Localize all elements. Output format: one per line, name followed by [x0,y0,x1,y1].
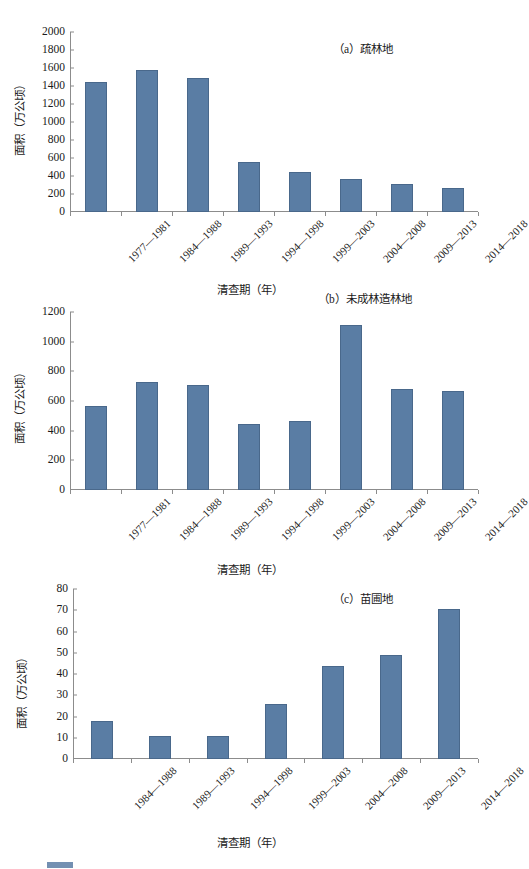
y-axis-tick-label: 20 [57,711,74,723]
x-axis-category-label: 1977—1981 [126,496,173,543]
x-axis-category-label: 2009—2013 [432,218,479,265]
panel-c-plot: 010203040506070801984—19881989—19931994—… [73,589,478,759]
y-axis-tick-label: 2000 [42,26,70,38]
y-axis-tick-mark [70,68,74,69]
y-axis-tick-mark [73,674,77,675]
bar [149,736,171,759]
x-axis-tick-mark [131,759,132,763]
page-bottom-fragment [47,862,73,868]
y-axis-tick-mark [70,341,74,342]
bar [340,325,362,490]
bar [340,179,362,212]
bar [442,391,464,490]
x-axis-tick-mark [247,759,248,763]
x-axis-tick-mark [73,759,74,763]
y-axis-tick-mark [70,140,74,141]
x-axis-tick-mark [70,490,71,494]
x-axis-tick-mark [223,490,224,494]
x-axis-category-label: 1999—2003 [330,218,377,265]
y-axis-tick-label: 1800 [42,44,70,56]
y-axis-tick-mark [73,737,77,738]
x-axis-category-label: 1999—2003 [330,496,377,543]
y-axis-tick-mark [70,194,74,195]
y-axis-tick-mark [70,430,74,431]
x-axis-category-label: 2009—2013 [421,765,468,812]
bar [136,70,158,212]
y-axis-tick-mark [70,86,74,87]
y-axis-tick-label: 70 [57,605,74,617]
chart-panel-c: （c）苗圃地 面积（万公顷） 010203040506070801984—198… [0,580,498,869]
bar [289,421,311,490]
panel-b-y-axis-title: 面积（万公顷） [15,374,27,444]
bar [85,406,107,490]
y-axis-tick-mark [73,652,77,653]
y-axis-tick-label: 40 [57,668,74,680]
y-axis-tick-label: 1000 [42,116,70,128]
bar [391,184,413,212]
y-axis-tick-mark [73,610,77,611]
panel-c-x-axis-title: 清查期（年） [140,838,360,850]
panel-b-title: （b）未成林造林地 [318,294,412,306]
y-axis-tick-label: 0 [59,484,70,496]
y-axis-tick-label: 800 [48,366,70,378]
panel-a-plot: 0200400600800100012001400160018002000197… [70,32,478,212]
x-axis-category-label: 2014—2018 [479,765,526,812]
bar [187,78,209,212]
y-axis-tick-label: 50 [57,647,74,659]
x-axis-tick-mark [362,759,363,763]
chart-panel-b: （b）未成林造林地 面积（万公顷） 0200400600800100012001… [0,290,498,580]
x-axis-category-label: 1984—1988 [177,218,224,265]
y-axis-tick-mark [70,312,74,313]
bar [85,82,107,213]
x-axis-category-label: 2004—2008 [363,765,410,812]
x-axis-tick-mark [121,490,122,494]
x-axis-tick-mark [478,490,479,494]
x-axis-tick-mark [223,212,224,216]
y-axis-tick-label: 10 [57,732,74,744]
y-axis-tick-mark [70,158,74,159]
x-axis-tick-mark [274,490,275,494]
bar [391,389,413,490]
y-axis-tick-label: 800 [48,134,70,146]
x-axis-category-label: 2009—2013 [432,496,479,543]
x-axis-tick-mark [70,212,71,216]
x-axis-category-label: 1994—1998 [279,218,326,265]
bar [207,736,229,759]
bar [187,385,209,490]
bar [91,721,113,759]
y-axis-tick-label: 600 [48,395,70,407]
x-axis-category-label: 1989—1993 [228,496,275,543]
x-axis-tick-mark [121,212,122,216]
x-axis-category-label: 2014—2018 [483,496,529,543]
x-axis-category-label: 1984—1988 [177,496,224,543]
y-axis-tick-label: 1000 [42,336,70,348]
x-axis-category-label: 1989—1993 [228,218,275,265]
x-axis-tick-mark [420,759,421,763]
x-axis-tick-mark [478,212,479,216]
y-axis-tick-mark [73,695,77,696]
bar [289,172,311,212]
y-axis-tick-mark [70,104,74,105]
panel-b-plot: 0200400600800100012001977—19811984—19881… [70,312,478,490]
x-axis-category-label: 1999—2003 [306,765,353,812]
y-axis-tick-mark [73,589,77,590]
y-axis-tick-mark [70,176,74,177]
y-axis-tick-label: 1400 [42,80,70,92]
y-axis-tick-label: 400 [48,425,70,437]
y-axis-tick-label: 200 [48,455,70,467]
bar [380,655,402,759]
y-axis-tick-label: 60 [57,626,74,638]
bar [438,609,460,759]
y-axis-tick-label: 0 [59,206,70,218]
x-axis-tick-mark [189,759,190,763]
y-axis-tick-mark [73,716,77,717]
y-axis-tick-label: 200 [48,188,70,200]
x-axis-tick-mark [427,490,428,494]
x-axis-category-label: 2004—2008 [381,496,428,543]
y-axis-tick-label: 80 [57,583,74,595]
bar [265,704,287,759]
panel-c-y-axis-title: 面积（万公顷） [17,659,29,729]
y-axis-tick-label: 1600 [42,62,70,74]
x-axis-tick-mark [427,212,428,216]
